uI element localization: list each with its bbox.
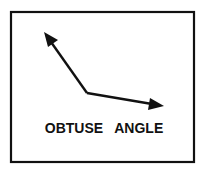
obtuse-angle-diagram: OBTUSE ANGLE bbox=[0, 0, 206, 171]
diagram-label: OBTUSE ANGLE bbox=[45, 120, 164, 136]
frame-border bbox=[11, 12, 194, 162]
